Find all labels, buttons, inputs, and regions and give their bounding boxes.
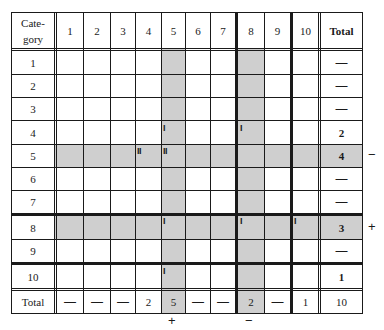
row-label-3: 3: [12, 98, 54, 120]
column-total-2: —: [84, 291, 110, 313]
col-line: [83, 12, 84, 314]
column-header-9: 9: [265, 13, 290, 48]
column-8-minus-mark: −: [245, 313, 253, 328]
row-line: [11, 120, 363, 121]
row-line: [11, 144, 363, 145]
shaded-row-8: [55, 214, 363, 239]
row-line: [11, 239, 363, 240]
category-header: Cate- gory: [12, 13, 54, 48]
row-total-7: —: [321, 191, 362, 213]
table-border-bottom: [11, 313, 363, 314]
row-label-2: 2: [12, 75, 54, 97]
column-total-3: —: [111, 291, 135, 313]
col-line: [161, 12, 162, 314]
thick-row-line: [11, 213, 363, 216]
category-divider: [54, 12, 55, 314]
tally-mark-r10-c5: I: [163, 267, 165, 276]
row-total-2: —: [321, 75, 362, 97]
column-total-1: —: [57, 291, 83, 313]
column-total-4: 2: [136, 291, 161, 313]
col-line: [185, 12, 186, 314]
col-line: [210, 12, 211, 314]
tally-mark-r4-c5: I: [163, 124, 165, 133]
row-line: [11, 167, 363, 168]
row-line: [11, 190, 363, 191]
total-column-header: Total: [321, 13, 362, 48]
column-header-5: 5: [162, 13, 185, 48]
row-total-1: —: [321, 51, 362, 74]
column-total-9: —: [265, 291, 290, 313]
header-divider-2: [11, 50, 363, 51]
column-header-8: 8: [238, 13, 264, 48]
category-divider-2: [56, 12, 57, 314]
tally-mark-r8-c8: I: [240, 217, 242, 226]
row-label-1: 1: [12, 51, 54, 74]
shaded-row-5: [55, 144, 363, 167]
row-line: [11, 97, 363, 98]
total-divider: [318, 12, 319, 314]
category-header-line1: Cate-: [21, 15, 45, 31]
column-total-6: —: [186, 291, 210, 313]
column-header-4: 4: [136, 13, 161, 48]
col-line: [110, 12, 111, 314]
tally-mark-r4-c8: I: [240, 124, 242, 133]
row-total-10: 1: [321, 265, 362, 288]
column-header-7: 7: [211, 13, 235, 48]
row-5-minus-mark: −: [368, 147, 376, 162]
column-total-5: 5: [162, 291, 185, 313]
row-label-10: 10: [12, 265, 54, 288]
grand-total: 10: [321, 291, 362, 313]
row-label-7: 7: [12, 191, 54, 213]
column-header-2: 2: [84, 13, 110, 48]
row-total-5: 4: [321, 145, 362, 167]
thick-col-line: [290, 12, 293, 314]
col-line: [264, 12, 265, 314]
tally-mark-r5-c5: II: [163, 147, 167, 156]
totals-row-label: Total: [12, 291, 54, 313]
totals-divider: [11, 288, 363, 289]
row-total-4: 2: [321, 121, 362, 144]
column-header-10: 10: [293, 13, 318, 48]
tally-mark-r8-c5: I: [163, 217, 165, 226]
column-header-6: 6: [186, 13, 210, 48]
row-total-3: —: [321, 98, 362, 120]
column-total-8: 2: [238, 291, 264, 313]
row-total-9: —: [321, 240, 362, 262]
column-total-7: —: [211, 291, 235, 313]
row-label-9: 9: [12, 240, 54, 262]
row-label-5: 5: [12, 145, 54, 167]
row-total-8: 3: [321, 216, 362, 239]
row-line: [11, 74, 363, 75]
category-header-line2: gory: [23, 31, 43, 47]
tally-mark-r8-c10: I: [294, 217, 296, 226]
tally-mark-r5-c4: II: [137, 147, 141, 156]
row-label-4: 4: [12, 121, 54, 144]
col-line: [135, 12, 136, 314]
row-label-8: 8: [12, 216, 54, 239]
shaded-column-8: [236, 49, 264, 313]
column-total-10: 1: [293, 291, 318, 313]
thick-col-line: [235, 12, 238, 314]
column-header-3: 3: [111, 13, 135, 48]
row-8-plus-mark: +: [368, 219, 376, 234]
cross-tabulation-table: Cate- gory 1 2 3 4 5 6 7 8 9 10 Total 1 …: [0, 0, 384, 330]
thick-row-line: [11, 262, 363, 265]
row-total-6: —: [321, 168, 362, 190]
column-header-1: 1: [57, 13, 83, 48]
header-divider: [11, 48, 363, 49]
table-border-right: [362, 12, 363, 314]
row-label-6: 6: [12, 168, 54, 190]
column-5-plus-mark: +: [168, 313, 176, 328]
